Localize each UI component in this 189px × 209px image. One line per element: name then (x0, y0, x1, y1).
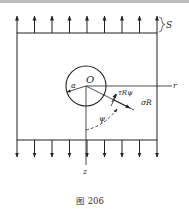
stress-label: S (166, 20, 172, 30)
plate-with-hole-diagram: S r z O a τRψ σR ψ 图 206 (0, 0, 189, 209)
radius-label: a (71, 81, 76, 90)
bottom-stress-arrows (17, 140, 157, 157)
angle-label: ψ (99, 114, 106, 123)
radius-arrow (67, 86, 86, 92)
figure-caption: 图 206 (76, 196, 104, 206)
origin-label: O (86, 74, 94, 85)
normal-stress-label: σR (141, 98, 152, 107)
z-axis-label: z (82, 167, 88, 176)
r-axis-label: r (173, 81, 178, 90)
stress-brace (159, 17, 165, 32)
shear-stress-label: τRψ (118, 89, 133, 97)
top-stress-arrows (17, 16, 157, 33)
normal-stress-arrow (114, 100, 130, 108)
